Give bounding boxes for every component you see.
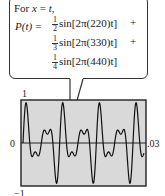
formula-term-1: 12sin[2π(220)t] +	[52, 16, 117, 33]
y-zero-label: 0	[10, 139, 15, 149]
formula-line-1: For x = t,	[14, 2, 54, 14]
y-min-label: −1	[14, 189, 25, 196]
y-max-label: 1	[22, 89, 27, 99]
x-max-label: .03	[147, 139, 160, 149]
formula-lhs: P(t) =	[15, 20, 42, 32]
formula-term-3: 14sin[2π(440)t]	[52, 54, 117, 71]
formula-term-2: 13sin[2π(330)t] +	[52, 35, 117, 52]
